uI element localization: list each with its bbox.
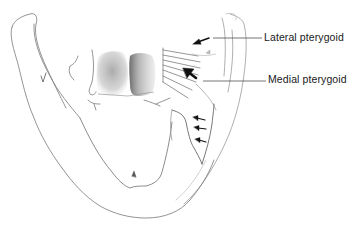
lateral-pterygoid-label: Lateral pterygoid — [264, 32, 344, 43]
left-ramus — [11, 14, 80, 168]
medial-pterygoid-label: Medial pterygoid — [268, 74, 347, 85]
insertion-arrow-2-icon — [194, 126, 206, 131]
medial-pterygoid-arrow-icon — [183, 68, 196, 78]
inner-mandible-contour — [80, 118, 172, 188]
insertion-arrow-1-icon — [193, 116, 205, 121]
insertion-arrow-3-icon — [195, 138, 206, 143]
leader-lines — [203, 38, 266, 81]
pterygoid-insertion-outline — [171, 104, 215, 164]
inferior-border — [62, 160, 214, 218]
lateral-pterygoid-arrow-icon — [193, 38, 209, 44]
medial-pterygoid-muscle — [163, 48, 216, 110]
mandible-diagram: Lateral pterygoid Medial pterygoid — [0, 0, 358, 232]
incisors — [97, 51, 156, 96]
fovea-mark — [206, 50, 210, 54]
